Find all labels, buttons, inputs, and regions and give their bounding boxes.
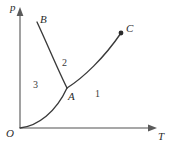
region-label-3: 3 [33,80,38,90]
x-axis-arrowhead [148,125,157,132]
point-label-c: C [126,23,133,34]
point-label-b: B [40,14,47,25]
diagram-canvas [0,0,171,152]
region-label-2: 2 [62,58,67,68]
point-label-a: A [68,91,75,102]
y-axis-arrowhead [17,7,24,16]
fusion-curve [37,22,67,88]
sublimation-curve [20,88,67,128]
region-label-1: 1 [95,89,100,99]
phase-diagram-figure: p T O B C A 1 2 3 [0,0,171,152]
vaporization-curve [67,33,121,88]
critical-point-marker [119,31,124,36]
y-axis-label: p [10,2,16,13]
x-axis-label: T [158,131,164,142]
origin-label: O [6,128,14,139]
